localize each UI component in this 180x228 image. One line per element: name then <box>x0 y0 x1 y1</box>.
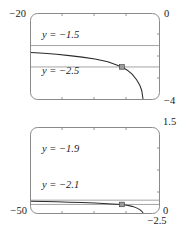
annotation-y-equals-2-5: y = −2.5 <box>41 65 79 76</box>
annotation-y-equals-2-1: y = −2.1 <box>41 179 79 190</box>
annotation-y-equals-1-9: y = −1.9 <box>41 143 80 154</box>
annotation-y-equals-1-5: y = −1.5 <box>41 29 79 40</box>
axis-label-bottom-panel-bottom-right: −2.5 <box>147 215 166 226</box>
math-figure-two-panels: −20 0 −4 y = −1.5 y = −2.5 <box>0 0 180 228</box>
axis-label-bottom-right-top-panel: −4 <box>164 95 176 106</box>
axis-label-top-right: 0 <box>164 8 169 19</box>
intersection-marker-top <box>119 65 124 70</box>
chart-panel-top: −20 0 −4 y = −1.5 y = −2.5 <box>0 0 180 114</box>
axis-label-top-left: −20 <box>10 8 26 19</box>
axis-label-bottom-panel-top-right: 1.5 <box>163 116 176 127</box>
chart-panel-bottom: 1.5 −50 0 −2.5 y = −1.9 y = −2.1 <box>0 114 180 228</box>
intersection-marker-bottom <box>119 202 124 207</box>
axis-label-bottom-panel-bottom-left: −50 <box>11 205 27 216</box>
